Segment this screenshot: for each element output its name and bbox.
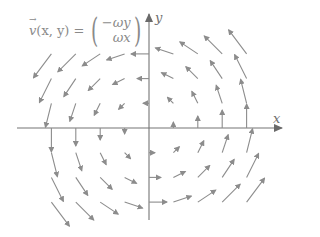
field-arrow bbox=[113, 79, 125, 85]
field-arrow bbox=[51, 202, 69, 226]
field-arrow bbox=[198, 141, 204, 153]
field-arrow bbox=[216, 85, 222, 103]
formula-args: (x, y) = bbox=[36, 23, 84, 38]
field-arrow bbox=[76, 202, 94, 220]
field-arrow bbox=[100, 153, 106, 165]
field-arrow bbox=[33, 54, 51, 78]
component-1: −ωy bbox=[102, 15, 131, 30]
field-arrow bbox=[241, 79, 247, 103]
field-arrow bbox=[155, 48, 173, 54]
field-arrow bbox=[100, 177, 112, 189]
field-arrow bbox=[210, 61, 222, 79]
field-arrow bbox=[94, 103, 100, 115]
column-vector: ( −ωy ωx ) bbox=[88, 14, 143, 46]
vector-entries: −ωy ωx bbox=[102, 15, 131, 45]
field-arrow bbox=[70, 103, 76, 121]
field-arrow bbox=[107, 54, 125, 60]
field-arrow bbox=[125, 202, 143, 208]
field-arrow bbox=[76, 153, 82, 171]
field-arrow bbox=[198, 190, 216, 202]
field-arrow bbox=[100, 202, 118, 214]
field-arrow bbox=[173, 171, 185, 177]
vector-symbol: v bbox=[29, 23, 36, 38]
field-arrow bbox=[247, 129, 253, 153]
field-arrow bbox=[222, 159, 234, 177]
field-arrow bbox=[173, 147, 179, 153]
field-arrow bbox=[125, 153, 131, 159]
field-arrow bbox=[161, 73, 173, 79]
field-arrow bbox=[247, 153, 259, 177]
field-arrow bbox=[39, 79, 51, 103]
field-arrow bbox=[222, 135, 228, 153]
field-arrow bbox=[58, 54, 76, 72]
field-arrow bbox=[76, 177, 88, 195]
component-2: ωx bbox=[113, 30, 131, 45]
formula-lhs: v(x, y) = bbox=[29, 23, 84, 38]
field-arrow bbox=[173, 196, 191, 202]
field-arrow bbox=[125, 177, 137, 183]
field-arrow bbox=[45, 103, 51, 127]
field-arrow bbox=[247, 178, 265, 202]
right-paren: ) bbox=[134, 14, 141, 46]
field-arrow bbox=[198, 165, 210, 177]
left-paren: ( bbox=[91, 14, 98, 46]
x-axis-label: x bbox=[273, 111, 280, 126]
field-arrow bbox=[51, 177, 63, 201]
field-arrow bbox=[180, 42, 198, 54]
field-arrow bbox=[204, 36, 222, 54]
field-arrow bbox=[192, 91, 198, 103]
field-arrow bbox=[119, 103, 125, 109]
field-formula: v(x, y) = ( −ωy ωx ) bbox=[29, 14, 144, 46]
field-arrow bbox=[222, 184, 240, 202]
field-arrow bbox=[186, 67, 198, 79]
field-arrow bbox=[51, 153, 57, 177]
field-arrow bbox=[167, 97, 173, 103]
field-arrow bbox=[88, 79, 100, 91]
field-arrow bbox=[229, 30, 247, 54]
y-axis-label: y bbox=[155, 10, 162, 25]
field-arrow bbox=[235, 55, 247, 79]
field-arrow bbox=[82, 54, 100, 66]
field-arrow bbox=[64, 79, 76, 97]
